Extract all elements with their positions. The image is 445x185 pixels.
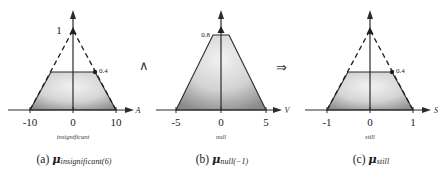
x-tick-label-right-c: 1	[410, 116, 416, 128]
plot-area-a: 1 0.4 -10 0 10 A insignificant	[0, 0, 148, 145]
fuzzy-membership-figure: 1 0.4 -10 0 10 A insignificant (a) μinsi…	[0, 0, 445, 185]
caption-sub-a: insignificant(6)	[61, 157, 112, 166]
implies-operator-icon: ⇒	[276, 60, 287, 75]
apex-marker-b	[218, 26, 225, 33]
plateau-label-b: 0.8	[201, 31, 210, 39]
x-tick-label-left-c: -1	[322, 116, 331, 128]
chart-panel-b: 0.8 -5 0 5 V null (b) μnull(−1)	[148, 0, 296, 185]
plateau-point-c	[390, 70, 394, 74]
caption-mu-a: μ	[52, 152, 60, 166]
plateau-label-a: 0.4	[99, 67, 108, 75]
membership-plot-c: 0.4 -1 0 1 S still	[297, 0, 445, 145]
caption-a: (a) μinsignificant(6)	[0, 152, 148, 166]
caption-c: (c) μstill	[297, 152, 445, 166]
x-tick-label-right-b: 5	[263, 116, 269, 128]
x-tick-label-mid-c: 0	[367, 116, 373, 128]
apex-marker-c	[367, 27, 374, 34]
y-axis-arrowhead-c	[367, 10, 373, 19]
peak-label-a: 1	[56, 24, 62, 36]
plateau-point-a	[93, 70, 97, 74]
chart-panel-a: 1 0.4 -10 0 10 A insignificant (a) μinsi…	[0, 0, 148, 185]
x-tick-label-left-a: -10	[23, 116, 38, 128]
caption-mu-c: μ	[368, 152, 376, 166]
x-axis-arrowhead-c	[422, 107, 431, 113]
plateau-label-c: 0.4	[396, 67, 405, 75]
term-label-a: insignificant	[57, 133, 90, 140]
x-axis-arrowhead-a	[125, 107, 134, 113]
membership-plot-b: 0.8 -5 0 5 V null	[148, 0, 296, 145]
term-label-c: still	[365, 133, 375, 140]
x-axis-arrowhead-b	[273, 107, 282, 113]
apex-marker-a	[70, 27, 77, 34]
x-axis-label-a: A	[135, 106, 141, 115]
x-tick-label-right-a: 10	[111, 116, 123, 128]
caption-b: (b) μnull(−1)	[148, 152, 296, 166]
caption-index-b: (b)	[196, 153, 209, 165]
x-axis-label-b: V	[285, 106, 291, 115]
plot-area-c: 0.4 -1 0 1 S still	[297, 0, 445, 145]
chart-panel-c: 0.4 -1 0 1 S still (c) μstill	[297, 0, 445, 185]
y-axis-arrowhead-a	[70, 10, 76, 19]
caption-sub-c: still	[377, 157, 390, 166]
term-label-b: null	[216, 133, 226, 140]
x-tick-label-mid-b: 0	[218, 116, 224, 128]
membership-plot-a: 1 0.4 -10 0 10 A insignificant	[0, 0, 148, 145]
caption-sub-b: null(−1)	[220, 157, 248, 166]
plot-area-b: 0.8 -5 0 5 V null	[148, 0, 296, 145]
caption-index-a: (a)	[37, 153, 50, 165]
x-tick-label-left-b: -5	[171, 116, 181, 128]
x-tick-label-mid-a: 0	[70, 116, 76, 128]
y-axis-arrowhead-b	[218, 10, 224, 19]
caption-index-c: (c)	[353, 153, 366, 165]
x-axis-label-c: S	[434, 106, 438, 115]
